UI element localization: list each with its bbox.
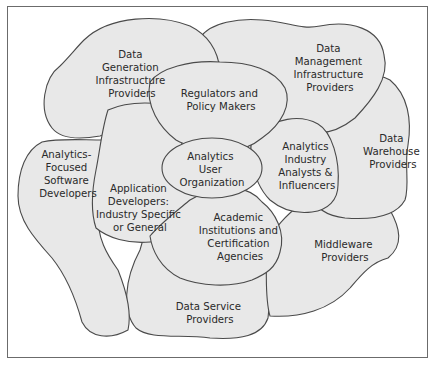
ecosystem-diagram: Data Generation Infrastructure Providers… <box>0 0 436 367</box>
